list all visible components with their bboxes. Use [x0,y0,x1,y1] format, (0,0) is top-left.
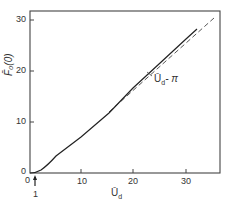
x-tick-label-30: 30 [181,177,191,186]
x-tick-label-20: 20 [128,177,138,186]
y-tick-label-30: 30 [16,15,26,24]
x-ticks [81,169,186,173]
x-axis-label: Ūd [111,188,122,200]
data-curve [30,29,197,173]
asymptote-label: Ūd- π [154,74,178,86]
asymptote-minus-pi: - π [165,73,178,84]
plot-frame [30,11,220,173]
y-tick-label-10: 10 [16,117,26,126]
y-axis-label: F̄₀(0) [3,53,14,76]
y-ticks [30,20,34,122]
x-tick-label-10: 10 [77,177,87,186]
y-tick-label-20: 20 [16,66,26,75]
asymptote-line [109,18,214,112]
chart-canvas [0,0,232,210]
x-origin-label: 0 [25,176,30,185]
arrow-icon [33,175,37,186]
arrow-label: 1 [33,190,38,199]
x-axis-subscript: d [118,193,122,200]
